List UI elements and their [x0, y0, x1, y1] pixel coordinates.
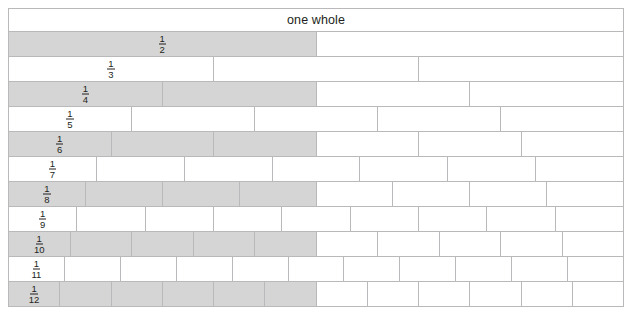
one-whole-label: one whole [287, 13, 345, 27]
fraction-row-2: 12 [9, 32, 623, 57]
fraction-denominator: 7 [50, 169, 55, 179]
fraction-cell-1-7 [536, 157, 623, 181]
fraction-cell-1-9: 19 [9, 207, 77, 231]
fraction-cell-1-9 [351, 207, 419, 231]
fraction-label-1-9: 19 [39, 208, 46, 229]
fraction-denominator: 3 [108, 69, 113, 79]
fraction-cell-1-12 [419, 282, 470, 306]
fraction-wall: one whole 1213141516171819110111112 [8, 8, 624, 307]
one-whole-row: one whole [9, 9, 623, 32]
fraction-cell-1-12 [60, 282, 111, 306]
fraction-label-1-6: 16 [56, 133, 63, 154]
fraction-cell-1-7 [273, 157, 361, 181]
fraction-row-6: 16 [9, 132, 623, 157]
fraction-cell-1-10: 110 [9, 232, 71, 256]
fraction-label-1-2: 12 [159, 33, 166, 54]
fraction-numerator: 1 [49, 158, 56, 169]
fraction-cell-1-10 [563, 232, 624, 256]
fraction-cell-1-9 [487, 207, 555, 231]
fraction-cell-1-7 [97, 157, 185, 181]
fraction-label-1-3: 13 [107, 58, 114, 79]
fraction-cell-1-12 [573, 282, 623, 306]
fraction-cell-1-10 [317, 232, 379, 256]
fraction-cell-1-2: 12 [9, 32, 317, 56]
fraction-numerator: 1 [39, 208, 46, 219]
fraction-cell-1-3 [419, 57, 623, 81]
fraction-label-1-10: 110 [34, 233, 45, 254]
fraction-cell-1-11 [456, 257, 512, 281]
fraction-cell-1-5 [132, 107, 255, 131]
fraction-denominator: 11 [32, 269, 42, 279]
fraction-cell-1-3 [214, 57, 419, 81]
fraction-numerator: 1 [56, 133, 63, 144]
fraction-numerator: 1 [107, 58, 114, 69]
fraction-cell-1-10 [71, 232, 133, 256]
fraction-cell-1-12 [214, 282, 265, 306]
fraction-denominator: 9 [40, 219, 45, 229]
fraction-cell-1-6 [112, 132, 215, 156]
fraction-row-5: 15 [9, 107, 623, 132]
fraction-denominator: 12 [29, 294, 40, 304]
fraction-cell-1-11 [177, 257, 233, 281]
fraction-cell-1-7: 17 [9, 157, 97, 181]
fraction-cell-1-7 [448, 157, 536, 181]
fraction-row-9: 19 [9, 207, 623, 232]
fraction-cell-1-8 [240, 182, 317, 206]
fraction-cell-1-12 [265, 282, 316, 306]
fraction-numerator: 1 [30, 283, 37, 294]
fraction-cell-1-8 [163, 182, 240, 206]
fraction-row-10: 110 [9, 232, 623, 257]
fraction-cell-1-9 [146, 207, 214, 231]
fraction-cell-1-10 [378, 232, 440, 256]
fraction-row-7: 17 [9, 157, 623, 182]
fraction-denominator: 10 [34, 244, 45, 254]
fraction-row-8: 18 [9, 182, 623, 207]
fraction-cell-1-5 [501, 107, 623, 131]
fraction-numerator: 1 [66, 108, 73, 119]
fraction-cell-1-11 [65, 257, 121, 281]
fraction-rows: 1213141516171819110111112 [9, 32, 623, 306]
fraction-cell-1-12 [522, 282, 573, 306]
fraction-cell-1-9 [214, 207, 282, 231]
fraction-cell-1-12: 112 [9, 282, 60, 306]
fraction-cell-1-5 [255, 107, 378, 131]
fraction-cell-1-10 [440, 232, 502, 256]
fraction-numerator: 1 [82, 83, 89, 94]
fraction-cell-1-11 [233, 257, 289, 281]
fraction-cell-1-6 [419, 132, 522, 156]
fraction-cell-1-4 [317, 82, 471, 106]
fraction-row-11: 111 [9, 257, 623, 282]
fraction-cell-1-4: 14 [9, 82, 163, 106]
fraction-cell-1-11 [289, 257, 345, 281]
fraction-cell-1-10 [194, 232, 256, 256]
fraction-denominator: 8 [44, 194, 49, 204]
fraction-label-1-8: 18 [43, 183, 50, 204]
fraction-cell-1-11 [568, 257, 623, 281]
fraction-cell-1-3: 13 [9, 57, 214, 81]
fraction-cell-1-4 [470, 82, 623, 106]
fraction-cell-1-9 [419, 207, 487, 231]
fraction-cell-1-9 [77, 207, 145, 231]
fraction-label-1-7: 17 [49, 158, 56, 179]
fraction-row-12: 112 [9, 282, 623, 306]
fraction-cell-1-7 [360, 157, 448, 181]
fraction-denominator: 6 [57, 144, 62, 154]
fraction-cell-1-12 [112, 282, 163, 306]
fraction-label-1-5: 15 [66, 108, 73, 129]
fraction-cell-1-10 [501, 232, 563, 256]
fraction-cell-1-5 [378, 107, 501, 131]
fraction-cell-1-2 [317, 32, 624, 56]
fraction-row-3: 13 [9, 57, 623, 82]
fraction-cell-1-11: 111 [9, 257, 65, 281]
fraction-label-1-11: 111 [32, 258, 42, 279]
fraction-cell-1-8 [86, 182, 163, 206]
fraction-cell-1-12 [317, 282, 368, 306]
fraction-cell-1-6 [214, 132, 317, 156]
fraction-cell-1-10 [132, 232, 194, 256]
fraction-denominator: 5 [67, 119, 72, 129]
fraction-label-1-12: 112 [29, 283, 40, 304]
fraction-cell-1-8 [393, 182, 470, 206]
fraction-cell-1-10 [255, 232, 317, 256]
fraction-cell-1-12 [163, 282, 214, 306]
fraction-numerator: 1 [159, 33, 166, 44]
